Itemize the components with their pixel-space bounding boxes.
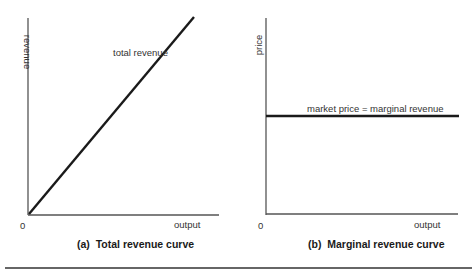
panel-a-xlabel: output bbox=[174, 219, 201, 230]
panel-b: price market price = marginal revenue 0 … bbox=[253, 18, 459, 250]
panel-b-ylabel: price bbox=[253, 35, 264, 56]
panel-a-origin: 0 bbox=[20, 220, 25, 231]
panel-a-annotation: total revenue bbox=[113, 47, 168, 58]
panel-b-origin: 0 bbox=[258, 220, 263, 231]
panel-a: revenue total revenue 0 output (a) Total… bbox=[20, 17, 219, 250]
panel-b-annotation: market price = marginal revenue bbox=[307, 103, 444, 114]
panel-b-caption: (b) Marginal revenue curve bbox=[308, 238, 445, 250]
panel-a-caption: (a) Total revenue curve bbox=[77, 238, 194, 250]
total-revenue-line bbox=[29, 17, 194, 214]
panel-b-xlabel: output bbox=[414, 219, 441, 230]
panel-a-ylabel: revenue bbox=[22, 35, 33, 69]
diagram: revenue total revenue 0 output (a) Total… bbox=[0, 0, 474, 272]
